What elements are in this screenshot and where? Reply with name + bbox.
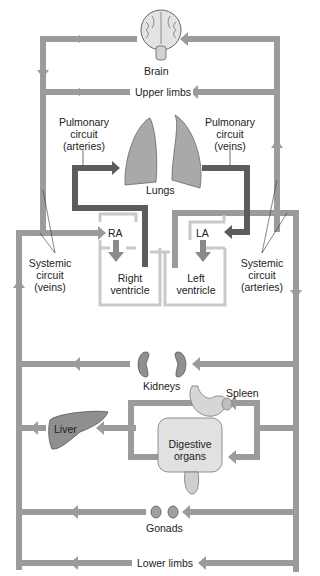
label-line: organs	[164, 450, 216, 462]
label-line: circuit	[202, 128, 258, 140]
label-gonads: Gonads	[146, 522, 183, 534]
brain-icon	[141, 10, 181, 60]
la-to-lv-arrow	[200, 240, 206, 252]
label-systemic-arteries: Systemic circuit (arteries)	[234, 257, 290, 293]
label-lungs: Lungs	[146, 184, 175, 196]
label-line: ventricle	[104, 284, 156, 296]
ra-to-rv-arrow	[113, 240, 119, 252]
label-line: Systemic	[24, 257, 76, 269]
label-ra: RA	[108, 227, 123, 239]
label-systemic-veins: Systemic circuit (veins)	[24, 257, 76, 293]
label-line: (veins)	[202, 140, 258, 152]
label-line: Digestive	[164, 438, 216, 450]
label-line: ventricle	[170, 284, 222, 296]
label-left-ventricle: Left ventricle	[170, 272, 222, 296]
label-line: circuit	[24, 269, 76, 281]
label-upper-limbs: Upper limbs	[133, 86, 193, 98]
label-line: Systemic	[234, 257, 290, 269]
kidneys-icon	[138, 352, 186, 377]
label-line: circuit	[234, 269, 290, 281]
label-spleen: Spleen	[226, 387, 259, 399]
label-line: (arteries)	[234, 281, 290, 293]
label-right-ventricle: Right ventricle	[104, 272, 156, 296]
label-la: LA	[196, 227, 209, 239]
label-brain: Brain	[144, 65, 169, 77]
label-line: Right	[104, 272, 156, 284]
label-line: Pulmonary	[56, 116, 112, 128]
gonads-icon	[151, 506, 178, 518]
label-line: (veins)	[24, 281, 76, 293]
label-digestive-organs: Digestive organs	[164, 438, 216, 462]
label-liver: Liver	[54, 423, 77, 435]
label-line: Left	[170, 272, 222, 284]
label-kidneys: Kidneys	[143, 380, 180, 392]
label-line: circuit	[56, 128, 112, 140]
label-line: Pulmonary	[202, 116, 258, 128]
label-pulmonary-arteries: Pulmonary circuit (arteries)	[56, 116, 112, 152]
label-lower-limbs: Lower limbs	[135, 557, 195, 569]
lungs-icon	[125, 115, 201, 188]
label-pulmonary-veins: Pulmonary circuit (veins)	[202, 116, 258, 152]
label-line: (arteries)	[56, 140, 112, 152]
